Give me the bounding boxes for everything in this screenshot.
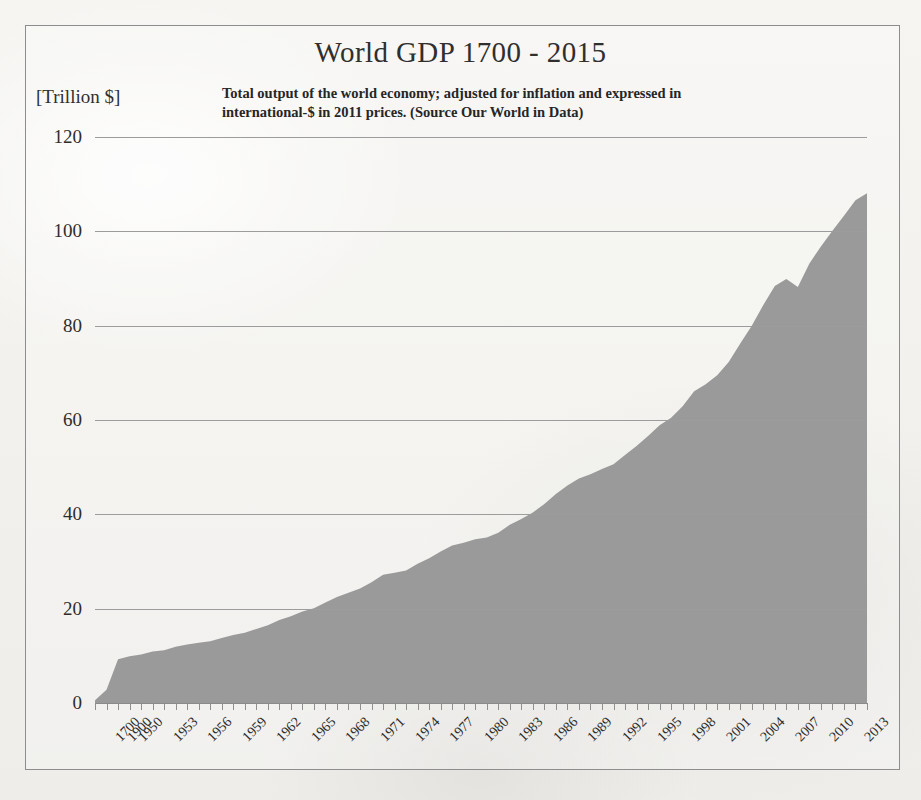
plot-area: 020406080100120 xyxy=(95,137,867,703)
x-axis-tick xyxy=(222,703,223,710)
x-axis-tick xyxy=(590,703,591,710)
x-axis-tick xyxy=(153,703,154,710)
x-axis-tick xyxy=(418,703,419,710)
x-axis-tick xyxy=(245,703,246,710)
x-axis-tick xyxy=(176,703,177,710)
x-axis-tick xyxy=(544,703,545,710)
x-axis-tick xyxy=(602,703,603,710)
x-axis-tick xyxy=(855,703,856,710)
x-axis-tick xyxy=(809,703,810,710)
x-axis-tick xyxy=(694,703,695,710)
x-axis-tick xyxy=(291,703,292,710)
y-axis-tick-label: 100 xyxy=(54,220,83,242)
page-title: World GDP 1700 - 2015 xyxy=(0,36,921,69)
x-axis-tick xyxy=(832,703,833,710)
x-axis-tick xyxy=(372,703,373,710)
y-axis-tick-label: 20 xyxy=(63,598,82,620)
x-axis-tick xyxy=(199,703,200,710)
x-axis-tick xyxy=(268,703,269,710)
y-axis-tick-label: 0 xyxy=(73,692,83,714)
x-axis-tick xyxy=(487,703,488,710)
y-axis-tick-label: 60 xyxy=(63,409,82,431)
x-axis-tick xyxy=(740,703,741,710)
x-axis-tick xyxy=(360,703,361,710)
y-axis-tick-label: 80 xyxy=(63,315,82,337)
x-axis-tick xyxy=(752,703,753,710)
x-axis-tick xyxy=(164,703,165,710)
x-axis-tick xyxy=(337,703,338,710)
x-axis-tick xyxy=(452,703,453,710)
x-axis-tick xyxy=(107,703,108,710)
gridline xyxy=(95,231,867,232)
x-axis-tick xyxy=(302,703,303,710)
x-axis-tick xyxy=(510,703,511,710)
x-axis-tick xyxy=(141,703,142,710)
chart-subtitle: Total output of the world economy; adjus… xyxy=(222,84,762,123)
x-axis-tick xyxy=(786,703,787,710)
x-axis-tick xyxy=(844,703,845,710)
x-axis-tick xyxy=(118,703,119,710)
x-axis-tick xyxy=(729,703,730,710)
x-axis-tick xyxy=(130,703,131,710)
x-axis-tick xyxy=(314,703,315,710)
x-axis-tick xyxy=(763,703,764,710)
gridline xyxy=(95,326,867,327)
x-axis-tick xyxy=(498,703,499,710)
x-axis-tick xyxy=(798,703,799,710)
x-axis-tick xyxy=(256,703,257,710)
x-axis-tick xyxy=(348,703,349,710)
x-axis-tick xyxy=(614,703,615,710)
x-axis-tick xyxy=(660,703,661,710)
x-axis-tick xyxy=(648,703,649,710)
x-axis-tick xyxy=(775,703,776,710)
y-axis-tick-label: 40 xyxy=(63,503,82,525)
x-axis-tick xyxy=(533,703,534,710)
x-axis-tick xyxy=(706,703,707,710)
x-axis-tick xyxy=(521,703,522,710)
x-axis-tick xyxy=(683,703,684,710)
x-axis-tick xyxy=(279,703,280,710)
x-axis-tick xyxy=(717,703,718,710)
y-axis-tick-label: 120 xyxy=(54,126,83,148)
x-axis-tick xyxy=(821,703,822,710)
x-axis-tick xyxy=(95,703,96,710)
x-axis-tick xyxy=(429,703,430,710)
gridline xyxy=(95,137,867,138)
gridline xyxy=(95,420,867,421)
x-axis-tick xyxy=(475,703,476,710)
x-axis-tick xyxy=(579,703,580,710)
x-axis-tick xyxy=(187,703,188,710)
x-axis-tick xyxy=(867,703,868,710)
x-axis-tick xyxy=(567,703,568,710)
x-axis-tick xyxy=(395,703,396,710)
x-axis-tick xyxy=(233,703,234,710)
gridline xyxy=(95,609,867,610)
x-axis-tick xyxy=(441,703,442,710)
gridline xyxy=(95,514,867,515)
y-axis-unit-label: [Trillion $] xyxy=(36,86,120,108)
x-axis-tick xyxy=(637,703,638,710)
x-axis-tick xyxy=(671,703,672,710)
x-axis-tick xyxy=(325,703,326,710)
x-axis-tick xyxy=(625,703,626,710)
x-axis-tick xyxy=(556,703,557,710)
x-axis-tick xyxy=(383,703,384,710)
x-axis-tick xyxy=(406,703,407,710)
x-axis-tick xyxy=(464,703,465,710)
x-axis-tick xyxy=(210,703,211,710)
